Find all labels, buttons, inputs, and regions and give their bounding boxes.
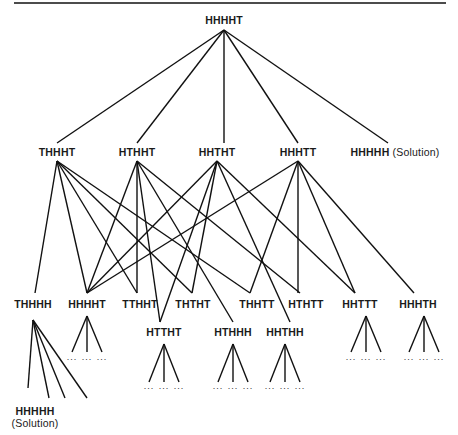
- leaf-solution-label: HHHHH: [16, 405, 55, 417]
- ellipsis: ...: [97, 352, 108, 362]
- ellipsis: ...: [265, 381, 276, 391]
- node-l3: THTHT: [175, 298, 210, 310]
- ellipsis: ...: [82, 352, 93, 362]
- node-l2: HHTHT: [199, 146, 236, 158]
- solution-note: (Solution): [393, 146, 440, 158]
- node-l3b: HTTHT: [146, 326, 181, 338]
- ellipsis: ...: [144, 381, 155, 391]
- node-l3: THHTT: [239, 298, 274, 310]
- ellipsis: ...: [361, 352, 372, 362]
- node-l3: THHHH: [14, 298, 52, 310]
- node-l3: TTHHT: [122, 298, 157, 310]
- ellipsis: ...: [280, 381, 291, 391]
- node-label: HHHHH: [351, 146, 390, 158]
- leaf-solution-note: (Solution): [12, 417, 59, 429]
- ellipsis: ...: [159, 381, 170, 391]
- node-l2: HHHTT: [280, 146, 317, 158]
- ellipsis: ...: [434, 352, 445, 362]
- node-l3: HHHTH: [399, 298, 437, 310]
- ellipsis: ...: [419, 352, 430, 362]
- node-l2-solution: HHHHH (Solution): [351, 146, 440, 158]
- node-l3: HHHHT: [68, 298, 106, 310]
- ellipsis: ...: [213, 381, 224, 391]
- ellipsis: ...: [376, 352, 387, 362]
- ellipsis: ...: [228, 381, 239, 391]
- ellipsis: ...: [295, 381, 306, 391]
- ellipsis: ...: [174, 381, 185, 391]
- node-l3b: HHTHH: [266, 326, 304, 338]
- tree-edges: [0, 0, 458, 435]
- node-root: HHHHT: [205, 14, 243, 26]
- node-l3b: HTHHH: [214, 326, 252, 338]
- node-l3: HHTTT: [342, 298, 377, 310]
- ellipsis: ...: [243, 381, 254, 391]
- ellipsis: ...: [67, 352, 78, 362]
- ellipsis: ...: [404, 352, 415, 362]
- node-l3: HTHTT: [288, 298, 323, 310]
- node-l2: THHHT: [39, 146, 76, 158]
- ellipsis: ...: [346, 352, 357, 362]
- node-l2: HTHHT: [119, 146, 156, 158]
